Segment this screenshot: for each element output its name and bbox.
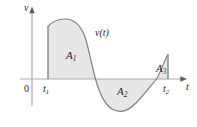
t1-subscript: 1 <box>46 88 49 95</box>
t2-tick-label: t2 <box>163 84 169 94</box>
region-label-a2: A2 <box>117 86 127 97</box>
v-axis-label: v <box>24 3 28 13</box>
region-a1-subscript: 1 <box>73 55 77 63</box>
velocity-signed-area-figure: v t 0 t1 t2 v(t) A1 A2 A3 <box>0 0 197 127</box>
region-a3-subscript: 3 <box>163 68 167 76</box>
t-axis-label: t <box>186 82 189 92</box>
region-a1-base: A <box>66 49 73 61</box>
t2-subscript: 2 <box>166 88 169 95</box>
region-label-a1: A1 <box>66 50 76 61</box>
region-label-a3: A3 <box>156 63 166 74</box>
origin-label: 0 <box>24 84 29 94</box>
region-a2-subscript: 2 <box>124 91 128 99</box>
t1-tick-label: t1 <box>43 84 49 94</box>
figure-canvas <box>0 0 197 127</box>
region-a2-base: A <box>117 85 124 97</box>
v-axis-arrow-icon <box>29 7 34 14</box>
curve-label: v(t) <box>95 28 109 38</box>
region-a3-base: A <box>156 62 163 74</box>
